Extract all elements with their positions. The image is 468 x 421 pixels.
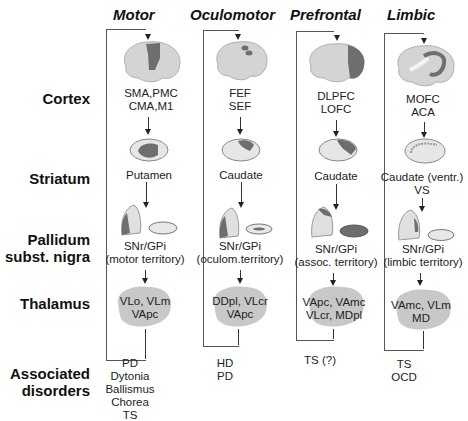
disorders-limbic: TS OCD [391, 358, 417, 384]
arrow-icon [334, 35, 340, 41]
thalamus-nuclei-prefrontal: VApc, VAmcVLcr, MDpl [303, 296, 366, 322]
disorders-prefrontal: TS (?) [304, 354, 336, 367]
pallidum-area-limbic: SNr/GPi(limbic territory) [383, 243, 462, 269]
thalamus-nuclei-oculomotor: DDpl, VLcrVApc [212, 295, 268, 321]
row-label-pallidum-line2: subst. nigra [0, 248, 90, 265]
disorders-motor: PD Dytonia Ballismus Chorea TS [105, 357, 154, 421]
column-title-oculomotor: Oculomotor [190, 6, 275, 23]
cortex-areas-oculomotor: FEFSEF [229, 87, 251, 113]
cortex-areas-prefrontal: DLPFCLOFC [317, 90, 355, 116]
striatum-icon [317, 137, 359, 165]
arrow-icon [417, 280, 423, 286]
column-title-motor: Motor [113, 6, 155, 23]
row-label-thalamus: Thalamus [0, 295, 90, 312]
row-label-disorders-line2: disorders [0, 382, 90, 399]
brain-icon [394, 44, 456, 88]
row-label-striatum: Striatum [0, 170, 90, 187]
arrow-line [336, 184, 337, 206]
striatum-area-oculomotor: Caudate [219, 169, 262, 182]
column-title-limbic: Limbic [387, 6, 435, 23]
loop-return-line [145, 329, 146, 359]
row-label-pallidum: Pallidum subst. nigra [0, 231, 90, 265]
row-label-pallidum-line1: Pallidum [0, 231, 90, 248]
loop-return-line [238, 329, 239, 345]
pallidum-icon [218, 208, 276, 240]
brain-icon [120, 40, 182, 84]
cortex-areas-limbic: MOFCACA [406, 93, 440, 119]
pallidum-area-prefrontal: SNr/GPi(assoc. territory) [294, 243, 377, 269]
loop-return-line [423, 331, 424, 349]
arrow-icon [237, 278, 243, 284]
striatum-area-prefrontal: Caudate [314, 170, 357, 183]
arrow-icon [237, 129, 243, 135]
pallidum-icon [310, 207, 370, 241]
column-title-prefrontal: Prefrontal [290, 6, 361, 23]
pallidum-icon [120, 205, 178, 237]
row-label-disorders-line1: Associated [0, 365, 90, 382]
arrow-line [241, 182, 242, 204]
brain-icon [306, 42, 366, 84]
brain-icon [213, 40, 269, 82]
striatum-icon [220, 137, 262, 165]
row-label-disorders: Associated disorders [0, 365, 90, 399]
pallidum-icon [397, 210, 457, 244]
loop-return-line [333, 329, 334, 339]
pallidum-area-oculomotor: SNr/GPi(oculom.territory) [197, 240, 284, 266]
row-label-cortex: Cortex [0, 90, 90, 107]
pallidum-area-motor: SNr/GPi(motor territory) [105, 240, 184, 266]
thalamus-nuclei-motor: VLo, VLmVApc [120, 295, 171, 321]
arrow-icon [145, 129, 151, 135]
arrow-icon [142, 278, 148, 284]
thalamus-nuclei-limbic: VAmc, VLmMD [391, 299, 451, 325]
cortex-areas-motor: SMA,PMCCMA,M1 [124, 87, 178, 113]
disorders-oculomotor: HD PD [217, 357, 234, 383]
striatum-area-limbic: Caudate (ventr.)VS [381, 171, 463, 197]
striatum-area-motor: Putamen [126, 169, 172, 182]
striatum-icon [128, 137, 170, 165]
arrow-line [146, 182, 147, 204]
striatum-icon [403, 137, 447, 167]
